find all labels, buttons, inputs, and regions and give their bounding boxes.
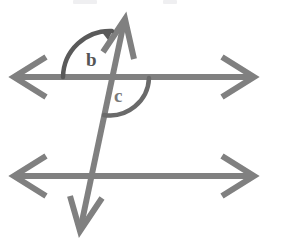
- geometry-figure: b c: [0, 0, 281, 240]
- angle-label-c: c: [114, 85, 122, 106]
- geometry-canvas: b c: [0, 0, 281, 240]
- top-parallel-line: [14, 57, 254, 97]
- bottom-parallel-line: [14, 156, 254, 196]
- angle-label-b: b: [86, 49, 97, 70]
- transversal-line: [70, 19, 134, 231]
